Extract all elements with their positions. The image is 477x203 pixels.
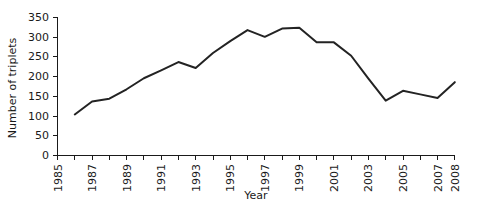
y-tick-label: 50 [35,129,49,142]
y-tick-label: 300 [28,31,49,44]
y-tick-label: 200 [28,70,49,83]
line-chart-figure: Number of triplets 350 300 250 200 150 1… [0,0,477,203]
y-tick-label: 350 [28,11,49,24]
x-axis [58,156,456,161]
x-tick-label: 1997 [259,164,272,192]
x-tick-label: 2008 [449,164,462,192]
chart-plot-area: Number of triplets 350 300 250 200 150 1… [0,0,477,203]
x-tick-label: 2005 [397,164,410,192]
x-tick-label: 1993 [190,164,203,192]
x-tick-label: 1991 [155,164,168,192]
x-tick-label: 2003 [362,164,375,192]
x-tick-label: 1989 [121,164,134,192]
y-tick-label: 0 [42,149,49,162]
x-tick-label: 1995 [224,164,237,192]
y-tick-label: 250 [28,50,49,63]
y-tick-label: 100 [28,110,49,123]
x-tick-label: 1999 [293,164,306,192]
x-tick-label: 1987 [86,164,99,192]
y-axis-tick-labels: 350 300 250 200 150 100 50 0 [28,11,49,162]
x-axis-tick-labels: 1985 1987 1989 1991 1993 1995 1997 1999 … [52,164,462,192]
x-tick-label: 1985 [52,164,65,192]
y-axis-title: Number of triplets [6,37,19,138]
y-tick-label: 150 [28,90,49,103]
x-axis-title: Year [243,189,268,202]
x-tick-label: 2001 [328,164,341,192]
x-tick-label: 2007 [432,164,445,192]
data-series-line [75,28,455,115]
y-axis [53,17,58,156]
